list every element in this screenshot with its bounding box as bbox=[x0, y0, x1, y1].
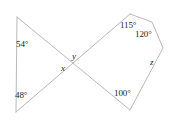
geometry-figure: 54° 48° 115° 120° 100° x y z bbox=[0, 0, 172, 127]
angle-label-54: 54° bbox=[16, 40, 28, 49]
variable-label-y: y bbox=[72, 52, 76, 61]
angle-label-115: 115° bbox=[120, 21, 136, 30]
lower-crossing-line bbox=[16, 14, 130, 112]
angle-label-100: 100° bbox=[114, 89, 131, 98]
angle-label-120: 120° bbox=[135, 30, 152, 39]
variable-label-z: z bbox=[150, 58, 154, 67]
variable-label-x: x bbox=[61, 64, 65, 73]
angle-label-48: 48° bbox=[15, 91, 27, 100]
figure-canvas bbox=[0, 0, 172, 127]
